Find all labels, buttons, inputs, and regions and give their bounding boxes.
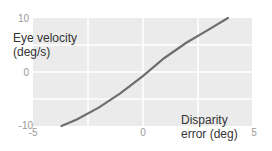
y-axis-label-line1: Eye velocity [13,31,77,45]
y-tick-10: 10 [18,13,30,24]
y-tick-0: 0 [23,67,29,78]
x-tick-5: 5 [251,127,257,138]
x-tick-0: 0 [140,127,146,138]
x-axis-label-line2: error (deg) [181,127,238,141]
y-axis-label-line2: (deg/s) [13,45,50,59]
x-tick-neg5: -5 [29,127,38,138]
x-axis-label-line1: Disparity [181,113,228,127]
chart: 10 0 -10 -5 0 5 Eye velocity (deg/s) Dis… [0,0,272,151]
